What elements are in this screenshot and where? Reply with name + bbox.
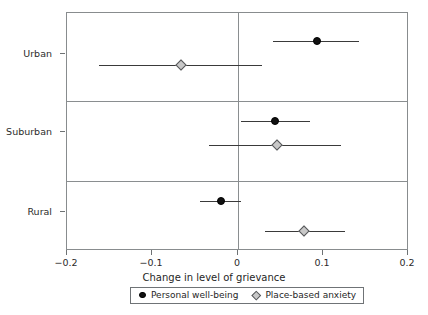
zero-reference-line — [238, 13, 239, 249]
legend-label-place-based-anxiety: Place-based anxiety — [265, 290, 356, 300]
plot-area — [66, 12, 408, 250]
marker-suburban-wellbeing — [271, 117, 279, 125]
xtick-mark-0.1 — [322, 250, 323, 255]
xtick-mark--0.2 — [66, 250, 67, 255]
chart-legend: Personal well-being Place-based anxiety — [130, 287, 364, 304]
marker-suburban-anxiety — [271, 139, 282, 150]
ytick-label-urban: Urban — [0, 48, 52, 59]
legend-label-personal-well-being: Personal well-being — [151, 290, 238, 300]
xtick-mark-0 — [237, 250, 238, 255]
legend-circle-icon — [138, 291, 147, 300]
x-axis-title: Change in level of grievance — [0, 272, 428, 283]
ytick-label-rural: Rural — [0, 206, 52, 217]
xtick-label-0.2: 0.2 — [399, 257, 414, 268]
ytick-mark-urban — [60, 53, 65, 54]
legend-item-place-based-anxiety: Place-based anxiety — [252, 290, 356, 300]
panel-divider-urban-suburban — [67, 101, 407, 102]
xtick-mark-0.2 — [407, 250, 408, 255]
ytick-mark-rural — [60, 211, 65, 212]
circle-marker-icon — [139, 292, 146, 299]
xtick-label-0.1: 0.1 — [314, 257, 329, 268]
marker-rural-wellbeing — [217, 197, 225, 205]
xtick-label--0.1: −0.1 — [139, 257, 162, 268]
ytick-mark-suburban — [60, 131, 65, 132]
xtick-label--0.2: −0.2 — [54, 257, 77, 268]
legend-item-personal-well-being: Personal well-being — [138, 290, 238, 300]
panel-divider-suburban-rural — [67, 181, 407, 182]
marker-urban-wellbeing — [313, 37, 321, 45]
marker-urban-anxiety — [175, 59, 186, 70]
xtick-label-0: 0 — [234, 257, 240, 268]
legend-diamond-icon — [252, 291, 261, 300]
ytick-label-suburban: Suburban — [0, 126, 52, 137]
forest-plot-figure: Urban Suburban Rural −0.2 −0.1 0 — [0, 0, 428, 315]
marker-rural-anxiety — [298, 225, 309, 236]
diamond-marker-icon — [252, 290, 261, 299]
xtick-mark--0.1 — [151, 250, 152, 255]
